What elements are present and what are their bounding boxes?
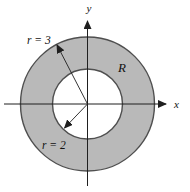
x-axis-label: x xyxy=(173,98,179,110)
diagram-canvas: y x r = 3 r = 2 R xyxy=(0,0,190,192)
annulus-diagram: y x r = 3 r = 2 R xyxy=(0,0,190,192)
outer-radius-label: r = 3 xyxy=(27,34,51,46)
inner-radius-label: r = 2 xyxy=(42,139,66,151)
region-label: R xyxy=(117,60,126,75)
y-axis-label: y xyxy=(86,2,92,14)
